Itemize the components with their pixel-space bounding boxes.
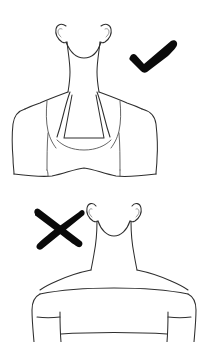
neckline-comparison-illustration <box>0 0 200 342</box>
illustration-canvas: Neckline Comparison Illustration <box>0 0 200 342</box>
